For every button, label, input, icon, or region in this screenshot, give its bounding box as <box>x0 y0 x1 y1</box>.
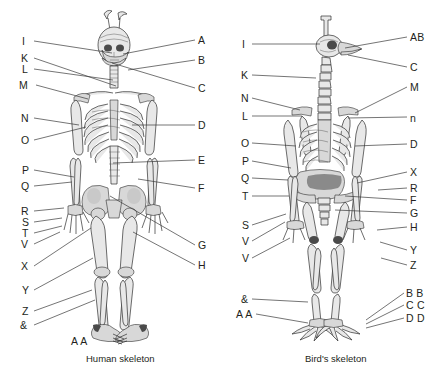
leader-human-left-6 <box>34 170 74 177</box>
human-skeleton-drawing <box>64 10 168 344</box>
leader-bird-left-10 <box>252 238 290 258</box>
label-bird-left-5: P <box>242 156 249 167</box>
label-bird-right-9: H <box>410 222 418 233</box>
label-bird-left-1: K <box>241 70 248 81</box>
leader-bird-left-11 <box>252 299 308 302</box>
leader-human-left-12 <box>34 228 91 266</box>
label-bird-right-2: M <box>410 82 419 93</box>
leader-bird-right-6 <box>378 188 407 190</box>
label-bird-right-14: D D <box>406 313 425 324</box>
label-bird-left-4: O <box>241 138 249 149</box>
label-human-bottom-0: A A <box>71 336 87 347</box>
skeleton-illustrations <box>0 0 440 382</box>
leader-bird-right-3 <box>348 117 407 118</box>
caption-bird-skeleton: Bird's skeleton <box>305 353 366 364</box>
label-human-right-3: D <box>198 120 206 131</box>
label-bird-left-3: L <box>242 111 248 122</box>
label-human-right-4: E <box>198 155 205 166</box>
label-human-left-2: L <box>22 64 28 75</box>
label-bird-right-5: X <box>410 167 417 178</box>
leader-bird-right-13 <box>366 305 404 324</box>
label-human-right-5: F <box>198 183 205 194</box>
label-bird-left-12: A A <box>236 309 252 320</box>
label-human-left-7: Q <box>21 181 29 192</box>
leader-human-right-7 <box>133 232 195 265</box>
leader-human-left-13 <box>34 258 93 290</box>
leader-human-left-1 <box>34 58 116 86</box>
label-human-left-3: M <box>19 80 28 91</box>
label-human-left-12: X <box>21 261 28 272</box>
leader-human-left-2 <box>34 69 113 80</box>
leader-lines <box>34 37 407 328</box>
leader-human-left-8 <box>34 208 64 211</box>
label-human-left-13: Y <box>22 285 29 296</box>
leader-bird-right-1 <box>348 55 407 67</box>
label-bird-right-7: F <box>410 195 417 206</box>
label-bird-right-13: C C <box>406 300 425 311</box>
label-bird-right-8: G <box>410 208 418 219</box>
leader-bird-left-2 <box>252 98 300 110</box>
label-bird-right-4: D <box>410 139 418 150</box>
leader-bird-left-5 <box>252 161 291 168</box>
label-human-left-4: N <box>21 113 29 124</box>
leader-bird-left-6 <box>252 178 288 180</box>
label-human-left-5: O <box>21 135 29 146</box>
leader-human-right-1 <box>128 60 195 70</box>
leader-bird-right-0 <box>345 37 407 48</box>
leader-bird-left-1 <box>252 75 316 78</box>
leader-bird-left-9 <box>252 222 285 241</box>
label-human-left-6: P <box>22 165 29 176</box>
leader-bird-right-11 <box>381 258 407 265</box>
label-bird-left-2: N <box>241 93 249 104</box>
label-human-left-15: & <box>20 320 27 331</box>
label-bird-right-10: Y <box>410 245 417 256</box>
label-human-right-2: C <box>198 83 206 94</box>
label-bird-left-7: T <box>242 191 249 202</box>
leader-bird-left-12 <box>256 314 308 323</box>
label-bird-left-11: & <box>241 294 248 305</box>
leader-bird-right-12 <box>366 293 404 320</box>
leader-bird-right-14 <box>366 318 404 328</box>
bird-skeleton-drawing <box>283 16 366 341</box>
label-human-left-11: V <box>21 239 28 250</box>
label-human-right-7: H <box>198 260 206 271</box>
label-bird-right-6: R <box>410 183 418 194</box>
leader-human-left-14 <box>34 290 92 311</box>
leader-human-left-9 <box>34 218 62 222</box>
label-bird-left-6: Q <box>241 173 249 184</box>
label-bird-right-12: B B <box>406 288 424 299</box>
label-human-left-0: I <box>22 36 25 47</box>
leader-bird-left-8 <box>252 214 286 225</box>
label-human-right-1: B <box>198 55 205 66</box>
label-bird-left-0: I <box>242 39 245 50</box>
label-bird-left-9: V <box>242 236 249 247</box>
skeleton-comparison-figure: IKLMNOPQRSTVXYZ&ABCDEFGHA AIKNLOPQTSVV&A… <box>0 0 440 382</box>
label-bird-right-0: AB <box>410 32 424 43</box>
leader-bird-right-10 <box>380 242 407 250</box>
leader-human-right-0 <box>123 40 195 54</box>
label-bird-right-3: n <box>410 113 416 124</box>
label-human-left-14: Z <box>22 306 29 317</box>
leader-bird-right-5 <box>357 172 407 183</box>
label-bird-right-1: C <box>410 62 418 73</box>
label-human-right-6: G <box>198 240 206 251</box>
label-bird-left-8: S <box>242 220 249 231</box>
caption-human-skeleton: Human skeleton <box>86 353 155 364</box>
label-bird-left-10: V <box>242 253 249 264</box>
label-human-right-0: A <box>198 35 205 46</box>
leader-bird-right-2 <box>355 87 407 113</box>
leader-human-left-7 <box>34 182 72 186</box>
leader-human-left-10 <box>34 226 62 233</box>
leader-human-left-15 <box>34 300 95 325</box>
label-bird-right-11: Z <box>410 260 417 271</box>
leader-human-left-3 <box>36 85 88 99</box>
leader-human-right-5 <box>138 179 195 188</box>
leader-human-left-11 <box>34 232 60 244</box>
leader-human-right-2 <box>112 63 195 88</box>
leader-bird-right-9 <box>377 227 407 230</box>
